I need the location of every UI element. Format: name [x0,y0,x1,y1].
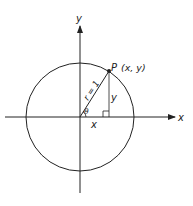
point-p-coords: (x, y) [121,62,146,73]
y-axis-label: y [75,13,83,24]
vertical-segment-label: y [110,92,118,103]
theta-label: θ [84,107,89,116]
x-axis-label: x [177,112,184,123]
point-p-name: P [111,62,118,73]
unit-circle-diagram: y x P (x, y) r = 1 θ y x [0,0,193,206]
right-angle-marker [103,111,109,117]
horizontal-segment-label: x [90,119,97,130]
radius-label: r = 1 [81,79,101,102]
